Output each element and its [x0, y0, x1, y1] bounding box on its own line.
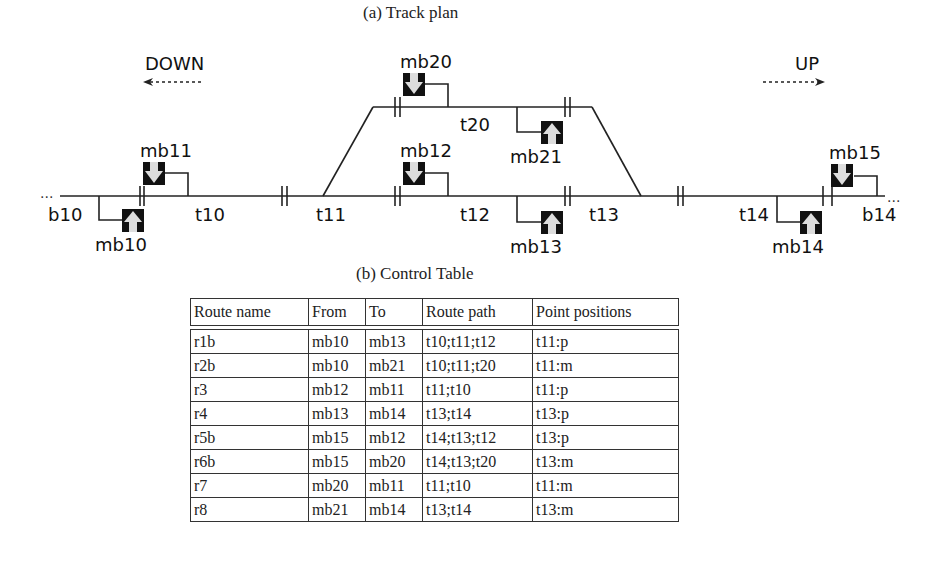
- table-cell: t14;t13;t12: [423, 426, 533, 450]
- track-label-t10: t10: [195, 204, 225, 225]
- up-arrow-icon: [541, 211, 563, 234]
- table-cell: t13:m: [533, 498, 679, 522]
- left-dashed-arrow-icon: [143, 78, 203, 86]
- table-cell: t11;t10: [423, 378, 533, 402]
- right-ellipsis: ...: [887, 189, 900, 205]
- table-cell: r7: [190, 474, 309, 498]
- table-row: r3 mb12 mb11 t11;t10 t11:p: [190, 378, 679, 402]
- table-cell: mb15: [309, 450, 366, 474]
- table-cell: mb11: [366, 378, 423, 402]
- table-cell: t13;t14: [423, 402, 533, 426]
- table-cell: mb12: [309, 378, 366, 402]
- table-row: r8 mb21 mb14 t13;t14 t13:m: [190, 498, 679, 522]
- signal-label: mb21: [510, 146, 562, 167]
- table-cell: r3: [190, 378, 309, 402]
- control-table: Route name From To Route path Point posi…: [190, 298, 679, 522]
- signal-mb12: mb12: [400, 140, 452, 185]
- track-label-t20: t20: [460, 114, 490, 135]
- track-label-b10: b10: [48, 204, 82, 225]
- table-cell: r6b: [190, 450, 309, 474]
- up-arrow-icon: [541, 121, 563, 144]
- column-header: Route name: [190, 298, 309, 326]
- table-cell: mb20: [366, 450, 423, 474]
- table-row: r4 mb13 mb14 t13;t14 t13:p: [190, 402, 679, 426]
- table-cell: t11:p: [533, 330, 679, 354]
- column-header: Route path: [423, 298, 533, 326]
- table-cell: r5b: [190, 426, 309, 450]
- table-cell: r4: [190, 402, 309, 426]
- table-cell: mb11: [366, 474, 423, 498]
- signal-mb15: mb15: [829, 142, 881, 187]
- down-arrow-icon: [143, 162, 165, 185]
- down-arrow-icon: [831, 164, 853, 187]
- table-cell: mb21: [366, 354, 423, 378]
- track-label-t11: t11: [316, 204, 346, 225]
- up-arrow-icon: [122, 209, 144, 232]
- table-cell: mb21: [309, 498, 366, 522]
- table-cell: t11:m: [533, 354, 679, 378]
- track-labels: b10 t10 t11 t12 t20 t13 t14 b14: [48, 114, 896, 225]
- up-arrow-icon: [800, 211, 822, 234]
- signal-label: mb15: [829, 142, 881, 163]
- table-cell: mb20: [309, 474, 366, 498]
- table-cell: t13;t14: [423, 498, 533, 522]
- table-cell: t13:m: [533, 450, 679, 474]
- down-arrow-icon: [403, 73, 425, 96]
- down-arrow-icon: [403, 162, 425, 185]
- signal-mb11: mb11: [140, 140, 192, 185]
- track-label-t14: t14: [739, 204, 769, 225]
- table-cell: mb14: [366, 402, 423, 426]
- left-ellipsis: ...: [40, 185, 53, 201]
- table-cell: t10;t11;t12: [423, 330, 533, 354]
- column-header: From: [309, 298, 366, 326]
- table-cell: mb14: [366, 498, 423, 522]
- track-plan-diagram: DOWN UP ... ...: [0, 0, 943, 290]
- right-dashed-arrow-icon: [763, 78, 825, 86]
- table-row: r6b mb15 mb20 t14;t13;t20 t13:m: [190, 450, 679, 474]
- table-cell: t13:p: [533, 426, 679, 450]
- table-row: r5b mb15 mb12 t14;t13;t12 t13:p: [190, 426, 679, 450]
- down-label: DOWN: [145, 53, 204, 74]
- column-header: Point positions: [533, 298, 679, 326]
- table-cell: r1b: [190, 330, 309, 354]
- signal-mb13: mb13: [510, 211, 563, 257]
- signal-label: mb11: [140, 140, 192, 161]
- table-cell: t10;t11;t20: [423, 354, 533, 378]
- table-cell: mb13: [309, 402, 366, 426]
- table-cell: t14;t13;t20: [423, 450, 533, 474]
- signal-mb10: mb10: [95, 209, 147, 255]
- table-header-row: Route name From To Route path Point posi…: [190, 298, 679, 326]
- table-cell: t11:p: [533, 378, 679, 402]
- column-header: To: [366, 298, 423, 326]
- table-cell: mb10: [309, 330, 366, 354]
- signal-label: mb12: [400, 140, 452, 161]
- signal-label: mb14: [772, 236, 824, 257]
- up-label: UP: [795, 53, 819, 74]
- signal-label: mb13: [510, 236, 562, 257]
- track-label-t12: t12: [460, 204, 490, 225]
- up-direction: UP: [763, 53, 825, 86]
- track-label-b14: b14: [862, 204, 896, 225]
- table-cell: t13:p: [533, 402, 679, 426]
- table-cell: mb12: [366, 426, 423, 450]
- table-cell: mb15: [309, 426, 366, 450]
- table-row: r2b mb10 mb21 t10;t11;t20 t11:m: [190, 354, 679, 378]
- table-row: r1b mb10 mb13 t10;t11;t12 t11:p: [190, 330, 679, 354]
- table-cell: t11;t10: [423, 474, 533, 498]
- table-cell: r2b: [190, 354, 309, 378]
- signal-mb14: mb14: [772, 211, 824, 257]
- table-cell: t11:m: [533, 474, 679, 498]
- signal-mb21: mb21: [510, 121, 563, 167]
- signal-mb20: mb20: [400, 51, 452, 96]
- table-row: r7 mb20 mb11 t11;t10 t11:m: [190, 474, 679, 498]
- table-cell: mb10: [309, 354, 366, 378]
- track-label-t13: t13: [589, 204, 619, 225]
- table-cell: r8: [190, 498, 309, 522]
- down-direction: DOWN: [143, 53, 204, 86]
- table-cell: mb13: [366, 330, 423, 354]
- control-table-caption: (b) Control Table: [356, 264, 473, 284]
- signal-label: mb20: [400, 51, 452, 72]
- signal-label: mb10: [95, 234, 147, 255]
